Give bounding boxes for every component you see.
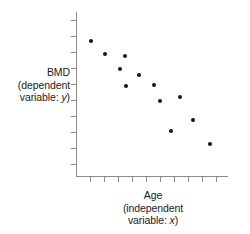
y-axis-tick [71,84,76,85]
x-axis-line [76,176,228,177]
x-axis-label-line3-prefix: variable: [128,214,170,226]
data-point [178,95,183,100]
x-axis-tick [146,177,147,182]
data-point [158,99,163,104]
x-axis-label-line1: Age [76,189,230,202]
x-axis-tick [174,177,175,182]
y-axis-tick [71,164,76,165]
data-point [124,84,129,89]
y-axis-line [76,12,77,177]
y-axis-tick [71,52,76,53]
y-axis-tick [71,68,76,69]
data-point [123,54,128,59]
y-axis-tick [71,36,76,37]
y-axis-tick [71,132,76,133]
scatter-plot-figure: BMD (dependent variable: y) Age (indepen… [0,0,250,234]
y-axis-tick [71,116,76,117]
x-axis-tick [90,177,91,182]
data-point [89,39,94,44]
data-point [103,52,108,57]
x-axis-tick [216,177,217,182]
data-point [191,118,196,123]
data-point [118,67,123,72]
data-point [169,129,174,134]
x-axis-tick [132,177,133,182]
x-axis-label-line3: variable: x) [76,214,230,227]
x-axis-tick [118,177,119,182]
data-point [152,83,157,88]
y-axis-tick [71,20,76,21]
x-axis-tick [160,177,161,182]
x-axis-label: Age (independent variable: x) [76,189,230,227]
data-point [208,142,213,147]
y-axis-tick [71,148,76,149]
x-axis-tick [202,177,203,182]
x-axis-label-line3-suffix: ) [175,214,178,226]
x-axis-label-line2: (independent [76,202,230,215]
x-axis-tick [188,177,189,182]
data-point [137,73,142,78]
y-axis-tick [71,100,76,101]
x-axis-tick [104,177,105,182]
